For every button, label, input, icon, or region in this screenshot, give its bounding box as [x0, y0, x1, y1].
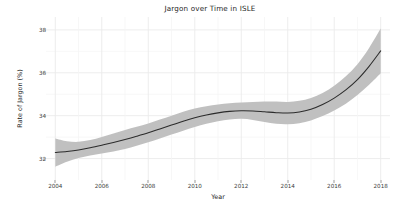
x-tick-mark: [101, 180, 102, 183]
x-tick-mark: [241, 180, 242, 183]
y-tick-mark: [43, 29, 46, 30]
x-tick-mark: [194, 180, 195, 183]
x-tick-mark: [55, 180, 56, 183]
chart-container: Jargon over Time in ISLE 32343638 200420…: [0, 0, 420, 213]
x-tick-label: 2016: [327, 183, 341, 189]
x-axis-title: Year: [46, 193, 390, 201]
y-axis-title: Rate of Jargon (%): [14, 17, 26, 180]
plot-svg: [46, 17, 390, 180]
x-tick-label: 2006: [95, 183, 109, 189]
plot-panel: [46, 17, 390, 180]
y-tick-mark: [43, 158, 46, 159]
x-tick-label: 2008: [141, 183, 155, 189]
x-tick-mark: [287, 180, 288, 183]
x-tick-mark: [334, 180, 335, 183]
x-tick-mark: [380, 180, 381, 183]
x-tick-mark: [148, 180, 149, 183]
chart-title: Jargon over Time in ISLE: [0, 4, 420, 13]
x-tick-label: 2012: [234, 183, 248, 189]
x-tick-label: 2018: [374, 183, 388, 189]
y-tick-mark: [43, 115, 46, 116]
x-tick-label: 2010: [188, 183, 202, 189]
x-tick-label: 2014: [281, 183, 295, 189]
y-tick-mark: [43, 72, 46, 73]
x-tick-label: 2004: [48, 183, 62, 189]
